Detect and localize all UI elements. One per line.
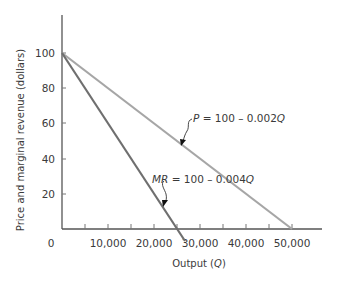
y-tick-label: 60 xyxy=(42,117,55,129)
x-tick-label: 0 xyxy=(48,237,55,249)
y-tick-label: 100 xyxy=(35,47,55,59)
y-tick-labels: 100 80 60 40 20 xyxy=(35,47,55,200)
y-tick-label: 80 xyxy=(42,82,55,94)
y-tick-label: 40 xyxy=(42,153,55,165)
x-tick-label: 50,000 xyxy=(274,237,311,249)
price-annotation: P = 100 – 0.002Q xyxy=(180,112,285,146)
y-axis-title: Price and marginal revenue (dollars) xyxy=(15,49,26,231)
x-tick-label: 30,000 xyxy=(182,237,219,249)
chart: 100 80 60 40 20 0 10,000 20,000 30,000 4… xyxy=(0,0,338,283)
y-tick-label: 20 xyxy=(42,188,55,200)
x-axis-title: Output (Q) xyxy=(172,258,226,269)
x-tick-label: 20,000 xyxy=(136,237,173,249)
mr-line xyxy=(62,53,185,241)
mr-annotation: MR = 100 – 0.004Q xyxy=(152,173,254,207)
x-tick-label: 10,000 xyxy=(90,237,127,249)
arrow-icon xyxy=(162,200,168,207)
x-ticks xyxy=(85,224,292,229)
price-annotation-leader xyxy=(183,119,192,141)
x-tick-labels: 0 10,000 20,000 30,000 40,000 50,000 xyxy=(48,237,311,249)
price-line xyxy=(62,53,292,229)
x-tick-label: 40,000 xyxy=(228,237,265,249)
price-equation-label: P = 100 – 0.002Q xyxy=(193,112,285,124)
mr-equation-label: MR = 100 – 0.004Q xyxy=(152,173,254,185)
